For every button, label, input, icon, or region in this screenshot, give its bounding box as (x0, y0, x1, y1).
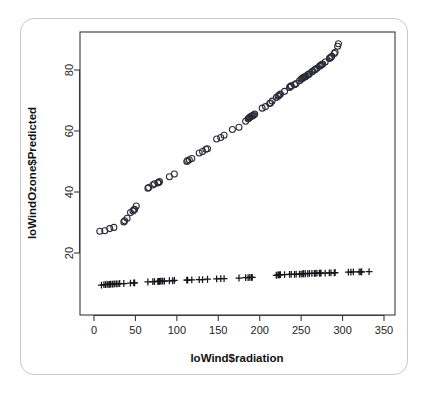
scatter-plot: 050100150200250300350 20406080 loWind$ra… (0, 0, 427, 399)
x-tick-label: 350 (375, 324, 393, 336)
data-point-plus (188, 276, 195, 283)
data-point-circle (171, 171, 177, 177)
x-axis-title: loWind$radiation (190, 352, 283, 364)
data-point-circle (107, 226, 113, 232)
data-point-plus (332, 269, 339, 276)
y-tick-label: 60 (63, 125, 75, 137)
data-point-plus (221, 275, 228, 282)
data-point-plus (171, 277, 178, 284)
data-point-circle (229, 126, 235, 132)
x-tick-label: 100 (168, 324, 186, 336)
y-tick-label: 80 (63, 64, 75, 76)
y-tick-label: 20 (63, 247, 75, 259)
series-observed-points (98, 268, 372, 288)
series-predicted-points (97, 41, 342, 235)
data-point-circle (236, 124, 242, 130)
plot-svg: 050100150200250300350 20406080 loWind$ra… (0, 0, 427, 399)
y-axis-title: loWindOzone$Predicted (26, 107, 38, 239)
data-point-plus (236, 275, 243, 282)
data-point-plus (204, 276, 211, 283)
x-tick-label: 50 (129, 324, 141, 336)
y-axis: 20406080 (63, 64, 80, 259)
data-point-plus (120, 280, 127, 287)
data-point-plus (131, 279, 138, 286)
x-tick-label: 250 (292, 324, 310, 336)
y-tick-label: 40 (63, 186, 75, 198)
data-point-circle (111, 224, 117, 230)
x-tick-label: 0 (91, 324, 97, 336)
x-axis: 050100150200250300350 (91, 315, 393, 336)
x-tick-label: 200 (251, 324, 269, 336)
data-point-plus (366, 268, 373, 275)
x-tick-label: 150 (209, 324, 227, 336)
x-tick-label: 300 (333, 324, 351, 336)
